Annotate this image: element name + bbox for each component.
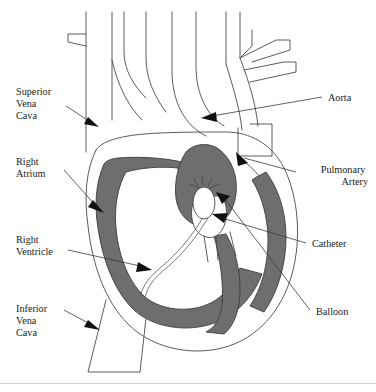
label-catheter: Catheter <box>312 238 347 249</box>
label-rv-line-1: Right <box>16 234 39 245</box>
diagram-canvas: Superior Vena Cava Right Atrium Right Ve… <box>0 0 376 392</box>
label-svc-line-3: Cava <box>16 110 37 121</box>
label-right-atrium: Right Atrium <box>16 156 46 179</box>
label-ivc-line-1: Inferior <box>16 303 48 314</box>
label-catheter-line-1: Catheter <box>312 238 347 249</box>
label-rv-line-2: Ventricle <box>16 246 53 257</box>
label-ra-line-2: Atrium <box>16 168 46 179</box>
label-balloon: Balloon <box>316 306 348 317</box>
balloon-tip <box>193 187 215 219</box>
label-aorta-line-1: Aorta <box>328 92 352 103</box>
label-ivc-line-3: Cava <box>16 327 37 338</box>
label-balloon-line-1: Balloon <box>316 306 348 317</box>
heart-catheter-diagram: Superior Vena Cava Right Atrium Right Ve… <box>0 0 376 392</box>
label-ra-line-1: Right <box>16 156 39 167</box>
label-svc-line-2: Vena <box>16 98 37 109</box>
label-ivc-line-2: Vena <box>16 315 37 326</box>
label-pa-line-2: Artery <box>341 176 368 187</box>
label-svc-line-1: Superior <box>16 86 52 97</box>
label-aorta: Aorta <box>328 92 352 103</box>
label-pa-line-1: Pulmonary <box>321 164 367 175</box>
